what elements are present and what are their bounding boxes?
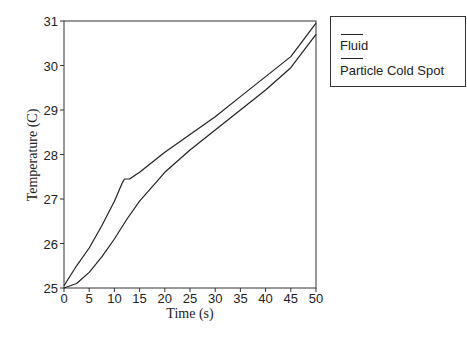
- x-tick-label: 30: [208, 291, 222, 306]
- y-tick-label: 26: [44, 237, 58, 252]
- series-line-fluid: [64, 23, 316, 286]
- x-tick-label: 5: [86, 291, 93, 306]
- x-tick-label: 25: [183, 291, 197, 306]
- legend-label-fluid: Fluid: [340, 38, 368, 53]
- x-tick-label: 40: [258, 291, 272, 306]
- y-tick-label: 29: [44, 103, 58, 118]
- y-tick-label: 27: [44, 192, 58, 207]
- y-axis: 25262728293031: [44, 14, 64, 296]
- x-tick-label: 35: [233, 291, 247, 306]
- legend: Fluid Particle Cold Spot: [330, 16, 466, 87]
- x-tick-label: 10: [107, 291, 121, 306]
- x-tick-label: 50: [309, 291, 323, 306]
- plot-area: [64, 21, 316, 288]
- legend-label-particle-cold-spot: Particle Cold Spot: [340, 63, 444, 78]
- y-tick-label: 31: [44, 14, 58, 29]
- x-tick-label: 0: [60, 291, 67, 306]
- y-tick-label: 30: [44, 59, 58, 74]
- x-tick-label: 45: [284, 291, 298, 306]
- y-tick-label: 25: [44, 281, 58, 296]
- series-line-particle-cold-spot: [64, 34, 316, 288]
- y-tick-label: 28: [44, 148, 58, 163]
- series-lines: [64, 23, 316, 288]
- plot-border: [64, 21, 316, 288]
- x-tick-label: 15: [132, 291, 146, 306]
- legend-swatch-particle-cold-spot: [341, 58, 363, 59]
- x-axis: 05101520253035404550: [60, 288, 323, 306]
- y-axis-title: Temperature (C): [25, 108, 41, 201]
- x-axis-title: Time (s): [166, 306, 214, 322]
- legend-swatch-fluid: [341, 34, 363, 35]
- x-tick-label: 20: [158, 291, 172, 306]
